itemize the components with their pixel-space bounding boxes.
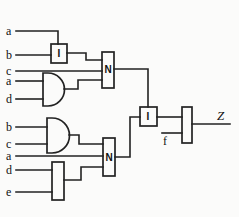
wire-nand1-to-ibox2 [114,69,148,107]
input-label-b2: b [6,120,12,134]
input-label-d1: d [6,92,12,106]
input-label-a2: a [6,74,12,88]
and-gate-upper [43,73,65,106]
output-label-z: Z [217,108,225,123]
input-label-a1: a [6,24,12,38]
gate-label-ibox-top: I [58,48,61,59]
wire-ibox-to-nand1 [67,53,102,60]
input-label-e1: e [6,185,11,199]
input-label-f: f [163,134,167,148]
circuit-diagram: I N N I a b c a d b c a d e f Z [0,0,239,217]
wire-rect-to-nand2 [64,167,103,180]
gate-label-n-lower: N [105,152,112,163]
wire-nand2-to-ibox2 [115,117,140,157]
and-gate-lower [47,118,70,153]
circuit-svg: I N N I a b c a d b c a d e f Z [0,0,239,217]
buffer-rect-lower [52,162,64,200]
gate-label-n-upper: N [104,64,111,75]
gate-label-ibox-mid: I [147,111,150,122]
wire-a1-to-ibox-top [16,31,58,44]
input-label-a3: a [6,149,12,163]
wire-and2-to-nand2 [69,135,103,144]
input-label-b1: b [6,48,12,62]
input-label-d2: d [6,163,12,177]
wire-and1-to-nand1 [64,80,102,89]
output-rect-gate [182,107,192,143]
